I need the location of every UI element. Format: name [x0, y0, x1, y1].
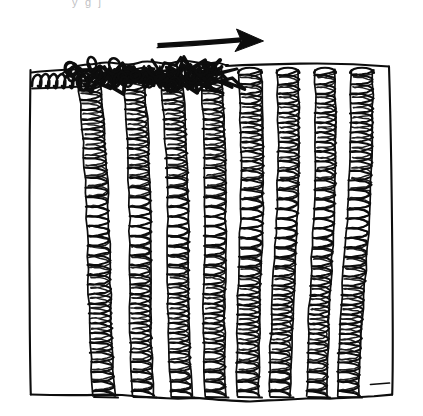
figure-root: y g j Transverse wave pulse travelling a… — [0, 0, 423, 416]
board-left-edge — [29, 70, 30, 395]
board-right-edge — [389, 67, 393, 395]
spring-5-left-rail — [236, 70, 241, 396]
spring-6-foot — [271, 397, 294, 398]
spring-5-foot — [238, 397, 262, 398]
spring-7 — [306, 68, 336, 398]
spring-5 — [236, 68, 264, 398]
spring-7-left-rail — [307, 70, 316, 396]
spring-2-helix — [123, 66, 154, 395]
spring-4-left-rail — [200, 66, 205, 396]
spring-2 — [123, 66, 157, 398]
spring-3 — [160, 66, 195, 398]
spring-3-left-rail — [160, 66, 171, 396]
spring-8-left-rail — [338, 70, 352, 396]
board-top-edge — [226, 63, 389, 66]
spring-8-foot — [338, 397, 362, 398]
spring-6-left-rail — [269, 70, 279, 396]
spring-8 — [337, 68, 374, 398]
spring-2-left-rail — [123, 66, 133, 396]
spring-6 — [269, 68, 300, 398]
spring-wave-figure: Transverse wave pulse travelling along a… — [0, 0, 423, 416]
spring-1-left-rail — [76, 66, 93, 396]
spring-1-foot — [94, 397, 118, 398]
spring-7-foot — [308, 397, 330, 398]
board-corner-tick — [371, 383, 390, 385]
spring-2-foot — [134, 397, 157, 398]
spring-5-helix-overdraw — [238, 72, 264, 396]
spring-1 — [76, 66, 118, 398]
spring-4 — [200, 66, 229, 398]
spring-3-foot — [172, 397, 195, 398]
spring-4-foot — [206, 397, 229, 398]
spring-column-set — [76, 66, 374, 398]
direction-arrow — [157, 29, 263, 52]
